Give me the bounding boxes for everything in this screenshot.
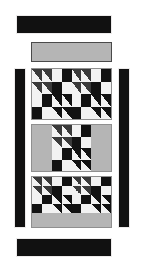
block-cell-hstk-bl bbox=[91, 94, 101, 107]
block-cell-hst-br bbox=[72, 82, 82, 95]
block-cell-hst-br bbox=[52, 125, 62, 137]
block-cell-black bbox=[72, 137, 82, 149]
block-cell-white bbox=[32, 195, 42, 204]
block-cell-black bbox=[91, 186, 101, 195]
block-cell-black bbox=[81, 125, 91, 137]
block-row-2 bbox=[31, 124, 112, 172]
block-cell-hst-br bbox=[81, 186, 91, 195]
block-cell-white bbox=[101, 82, 111, 95]
block-cell-black bbox=[32, 107, 42, 120]
block-cell-white bbox=[62, 82, 72, 95]
block-cell-hstk-bl bbox=[101, 195, 111, 204]
block-cell-hstk-bl bbox=[72, 148, 82, 160]
block-cell-hstk-bl bbox=[91, 204, 101, 213]
block-cell-hst-br bbox=[62, 125, 72, 137]
block-cell-hst-br bbox=[42, 177, 52, 186]
quilt-block bbox=[32, 69, 72, 119]
block-cell-white bbox=[91, 69, 101, 82]
block-cell-hst-br bbox=[32, 82, 42, 95]
block-cell-black bbox=[62, 69, 72, 82]
block-cell-black bbox=[52, 82, 62, 95]
block-cell-hst-br bbox=[81, 177, 91, 186]
block-cell-hst-br bbox=[42, 186, 52, 195]
block-cell-hst-br bbox=[42, 82, 52, 95]
block-cell-hstk-bl bbox=[62, 107, 72, 120]
block-cell-white bbox=[72, 125, 82, 137]
block-cell-white bbox=[42, 107, 52, 120]
block-cell-hstk-bl bbox=[52, 107, 62, 120]
block-cell-white bbox=[42, 204, 52, 213]
block-cell-white bbox=[72, 195, 82, 204]
block-cell-hst-br bbox=[81, 82, 91, 95]
block-row-3 bbox=[31, 176, 112, 228]
block-cell-black bbox=[42, 94, 52, 107]
block-cell-hstk-bl bbox=[62, 204, 72, 213]
block-cell-hst-br bbox=[42, 69, 52, 82]
top-sashing-strip bbox=[31, 42, 112, 62]
block-cell-hst-br bbox=[32, 69, 42, 82]
block-cell-white bbox=[81, 204, 91, 213]
block-cell-hst-br bbox=[72, 69, 82, 82]
block-cell-black bbox=[91, 82, 101, 95]
block-cell-hstk-bl bbox=[91, 107, 101, 120]
block-cell-hstk-bl bbox=[62, 94, 72, 107]
block-row-1 bbox=[31, 68, 112, 120]
block-cell-white bbox=[91, 177, 101, 186]
quilt-layout-diagram bbox=[0, 0, 143, 261]
block-cell-white bbox=[52, 177, 62, 186]
block-cell-white bbox=[101, 186, 111, 195]
block-cell-white bbox=[32, 94, 42, 107]
block-cell-hstk-bl bbox=[101, 94, 111, 107]
block-cell-black bbox=[62, 148, 72, 160]
bottom-inner-sashing bbox=[32, 213, 111, 227]
block-cell-hstk-bl bbox=[52, 94, 62, 107]
block-cell-black bbox=[101, 177, 111, 186]
block-cell-black bbox=[42, 195, 52, 204]
block-cell-white bbox=[72, 94, 82, 107]
side-sashing-right bbox=[91, 125, 111, 171]
block-cell-white bbox=[81, 107, 91, 120]
block-cell-hst-br bbox=[32, 186, 42, 195]
block-cell-hstk-bl bbox=[91, 195, 101, 204]
quilt-block bbox=[72, 69, 112, 119]
block-cell-hstk-bl bbox=[101, 204, 111, 213]
block-cell-hst-br bbox=[81, 69, 91, 82]
block-cell-black bbox=[81, 195, 91, 204]
block-cell-white bbox=[52, 69, 62, 82]
quilt-block bbox=[72, 177, 112, 213]
block-cell-black bbox=[32, 204, 42, 213]
block-cell-hstk-bl bbox=[52, 195, 62, 204]
block-cell-black bbox=[52, 160, 62, 172]
block-cell-hst-br bbox=[62, 137, 72, 149]
side-sashing-left bbox=[32, 125, 52, 171]
block-cell-white bbox=[81, 137, 91, 149]
block-cell-black bbox=[72, 107, 82, 120]
block-cell-hstk-bl bbox=[81, 160, 91, 172]
block-cell-white bbox=[62, 160, 72, 172]
block-cell-black bbox=[72, 204, 82, 213]
right-border-strip bbox=[118, 68, 130, 228]
block-cell-hstk-bl bbox=[72, 160, 82, 172]
block-cell-black bbox=[62, 177, 72, 186]
top-border-strip bbox=[16, 15, 112, 34]
left-border-strip bbox=[14, 68, 26, 228]
bottom-border-strip bbox=[16, 238, 112, 257]
block-cell-white bbox=[62, 186, 72, 195]
block-cell-hstk-bl bbox=[62, 195, 72, 204]
quilt-block bbox=[52, 125, 92, 171]
block-cell-hstk-bl bbox=[101, 107, 111, 120]
block-cell-hstk-bl bbox=[52, 204, 62, 213]
block-cell-hst-br bbox=[72, 177, 82, 186]
block-cell-black bbox=[101, 69, 111, 82]
block-cell-hst-br bbox=[52, 137, 62, 149]
block-cell-hst-br bbox=[72, 186, 82, 195]
block-cell-black bbox=[52, 186, 62, 195]
block-cell-white bbox=[52, 148, 62, 160]
quilt-block bbox=[32, 177, 72, 213]
block-cell-hst-br bbox=[32, 177, 42, 186]
block-cell-hstk-bl bbox=[81, 148, 91, 160]
block-cell-black bbox=[81, 94, 91, 107]
